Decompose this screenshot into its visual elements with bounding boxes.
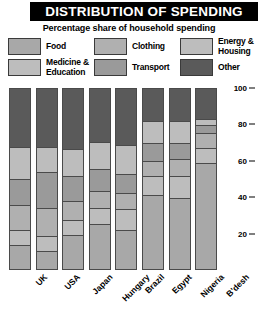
legend-item: Clothing: [94, 36, 180, 57]
y-axis-tick-label: 20: [232, 229, 247, 238]
bar-japan: [62, 88, 84, 270]
chart-figure: DISTRIBUTION OF SPENDING Percentage shar…: [0, 0, 258, 313]
legend-label: Other: [218, 63, 240, 72]
bar-segment: [196, 134, 216, 149]
legend-item: Food: [8, 36, 94, 57]
bar-segment: [170, 144, 190, 161]
bar-segment: [170, 160, 190, 177]
bar-segment: [116, 231, 136, 270]
bar-segment: [37, 89, 57, 148]
x-axis-label: USA: [62, 272, 82, 292]
bar-segment: [63, 202, 83, 221]
y-axis-tick: 20: [232, 229, 255, 238]
y-axis-tick-mark: [249, 124, 255, 125]
bar-egypt: [142, 88, 164, 270]
bar-hungary: [89, 88, 111, 270]
x-axis-label: UK: [34, 272, 50, 288]
bar-segment: [143, 162, 163, 177]
bar-segment: [63, 236, 83, 269]
bar-segment: [90, 170, 110, 192]
bar-segment: [90, 192, 110, 209]
bar-segment: [143, 122, 163, 144]
bar-uk: [9, 88, 31, 270]
y-axis-tick-mark: [249, 233, 255, 234]
chart-title-bar: DISTRIBUTION OF SPENDING: [30, 2, 258, 21]
bar-segment: [37, 237, 57, 252]
y-axis-tick-mark: [249, 197, 255, 198]
y-axis-tick-label: 60: [232, 156, 247, 165]
y-axis: 20406080100: [232, 88, 258, 270]
x-axis-label: B'desh: [224, 272, 251, 299]
y-axis-tick: 40: [232, 193, 255, 202]
bar-segment: [37, 252, 57, 270]
bar-segment: [116, 194, 136, 211]
legend-item: Transport: [94, 57, 180, 78]
y-axis-tick: 60: [232, 156, 255, 165]
bar-segment: [90, 143, 110, 170]
bar-segment: [196, 89, 216, 120]
chart-subtitle: Percentage share of household spending: [0, 23, 258, 33]
plot-area: [8, 88, 230, 270]
bar-segment: [63, 150, 83, 177]
page-title: DISTRIBUTION OF SPENDING: [45, 4, 243, 19]
bar-segment: [10, 246, 30, 269]
legend-swatch: [94, 38, 127, 55]
bar-segment: [90, 209, 110, 226]
x-axis-labels: UKUSAJapanHungaryBrazilEgyptNigeriaB'des…: [8, 272, 230, 313]
bar-segment: [116, 175, 136, 194]
bar-segment: [170, 177, 190, 199]
bar-segment: [90, 225, 110, 269]
x-axis-label: Nigeria: [198, 272, 225, 299]
bar-segment: [37, 173, 57, 209]
bar-usa: [36, 88, 58, 270]
bar-segment: [143, 177, 163, 196]
bar-segment: [63, 221, 83, 236]
legend-swatch: [180, 38, 213, 55]
legend-item: Energy &Housing: [180, 36, 254, 57]
bar-segment: [196, 149, 216, 164]
bar-segment: [143, 144, 163, 163]
y-axis-tick-label: 80: [232, 120, 247, 129]
y-axis-tick: 80: [232, 120, 255, 129]
x-axis-label: Egypt: [170, 272, 194, 296]
bar-segment: [170, 122, 190, 144]
bar-segment: [196, 126, 216, 134]
y-axis-tick-mark: [249, 88, 255, 89]
bar-nigeria: [169, 88, 191, 270]
bar-segment: [10, 231, 30, 246]
legend-label: Energy &Housing: [218, 37, 254, 55]
legend-swatch: [94, 59, 127, 76]
bar-segment: [10, 206, 30, 232]
legend-swatch: [180, 59, 213, 76]
legend-label: Clothing: [132, 42, 165, 51]
bar-segment: [63, 177, 83, 203]
bar-segment: [90, 89, 110, 143]
y-axis-tick: 100: [232, 84, 255, 93]
y-axis-tick-mark: [249, 160, 255, 161]
legend-label: Food: [46, 42, 66, 51]
bar-segment: [37, 209, 57, 236]
chart-legend: FoodClothingEnergy &HousingMedicine &Edu…: [8, 36, 254, 78]
bar-segment: [116, 210, 136, 230]
bar-segment: [10, 180, 30, 206]
y-axis-tick-label: 40: [232, 193, 247, 202]
legend-item: Other: [180, 57, 254, 78]
legend-label: Medicine &Education: [46, 58, 89, 76]
bar-segment: [143, 89, 163, 122]
x-axis-label: Japan: [90, 272, 114, 296]
bar-segment: [196, 164, 216, 269]
bar-segment: [143, 196, 163, 270]
bar-brazil: [115, 88, 137, 270]
legend-label: Transport: [132, 63, 169, 72]
bar-segment: [10, 89, 30, 148]
bar-segment: [170, 89, 190, 122]
legend-swatch: [8, 59, 41, 76]
bar-segment: [170, 199, 190, 269]
bar-bdesh: [195, 88, 217, 270]
y-axis-tick-label: 100: [232, 84, 247, 93]
legend-swatch: [8, 38, 41, 55]
legend-item: Medicine &Education: [8, 57, 94, 78]
bar-segment: [37, 148, 57, 174]
bar-segment: [63, 89, 83, 150]
bar-segment: [116, 146, 136, 175]
